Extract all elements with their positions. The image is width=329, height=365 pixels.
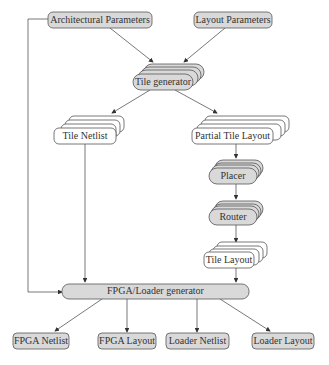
tile-layout-label: Tile Layout <box>204 255 254 265</box>
edge-layout-to-tilegen <box>184 28 225 62</box>
edge-arch-to-tilegen <box>110 28 153 62</box>
loader-layout-label: Loader Layout <box>252 336 314 346</box>
edge-fpgagen-to-loaderlayout <box>220 299 270 331</box>
fpga-loader-generator-label: FPGA/Loader generator <box>62 286 249 296</box>
fpga-netlist-label: FPGA Netlist <box>13 336 69 346</box>
fpga-layout-label: FPGA Layout <box>98 336 156 346</box>
layout-params-label: Layout Parameters <box>194 15 272 25</box>
router-label: Router <box>209 212 257 222</box>
tile-netlist-label: Tile Netlist <box>54 131 116 141</box>
loader-netlist-label: Loader Netlist <box>166 336 229 346</box>
placer-label: Placer <box>209 171 257 181</box>
arch-params-label: Architectural Parameters <box>48 15 152 25</box>
partial-tile-layout-label: Partial Tile Layout <box>192 131 273 141</box>
diagram-canvas <box>0 0 329 365</box>
edge-fpgagen-to-fpganetlist <box>55 299 102 331</box>
edge-arch-to-fpgagen <box>28 19 62 292</box>
edge-tilegen-to-netlist <box>112 90 150 113</box>
edge-tilegen-to-partial <box>175 90 217 113</box>
tile-generator-label: Tile generator <box>133 77 193 87</box>
